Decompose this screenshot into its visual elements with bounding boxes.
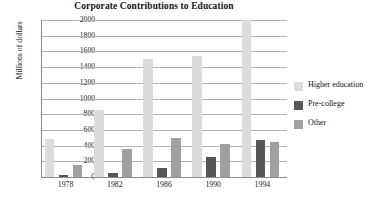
legend-item-label: Higher education [308, 80, 363, 90]
gridline [41, 177, 287, 178]
legend-item-label: Other [308, 118, 326, 128]
x-tick-label: 1990 [193, 181, 233, 189]
legend-item-label: Pre-college [308, 99, 344, 109]
bar [220, 144, 230, 177]
bar [45, 139, 55, 177]
bar [157, 168, 167, 177]
bar [122, 149, 132, 177]
chart-title: Corporate Contributions to Education [24, 1, 284, 11]
legend-item[interactable]: Other [294, 117, 384, 136]
bar [94, 110, 104, 177]
bar [270, 142, 280, 177]
bar [143, 59, 153, 177]
chart-figure: Corporate Contributions to Education Mil… [0, 0, 384, 205]
bar [73, 165, 83, 177]
plot-area [41, 20, 287, 177]
legend-item[interactable]: Higher education [294, 79, 384, 98]
y-axis-title: Millions of dollars [15, 0, 24, 106]
bars-layer [41, 20, 287, 177]
legend-swatch-icon [294, 120, 303, 129]
x-tick-label: 1994 [242, 181, 282, 189]
bar [242, 20, 252, 177]
bar [192, 56, 202, 177]
bar [206, 157, 216, 177]
legend-swatch-icon [294, 101, 303, 110]
bar [171, 138, 181, 177]
bar [59, 175, 69, 177]
x-tick-label: 1978 [46, 181, 86, 189]
bar [108, 173, 118, 177]
legend: Higher educationPre-collegeOther [294, 79, 384, 136]
x-tick-label: 1986 [144, 181, 184, 189]
bar [256, 140, 266, 177]
legend-item[interactable]: Pre-college [294, 98, 384, 117]
x-tick-label: 1982 [95, 181, 135, 189]
legend-swatch-icon [294, 82, 303, 91]
